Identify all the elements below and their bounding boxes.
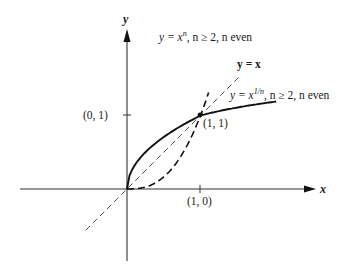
y-axis-label: y [123,12,128,27]
identity-line-label: y = x [237,59,261,71]
root-curve-label-exponent: 1/n [254,87,264,96]
root-curve-label-condition: , n ≥ 2, n even [264,89,329,101]
power-curve-label: y = xn, n ≥ 2, n even [159,30,252,43]
function-graph: y x (0, 1) (1, 1) (1, 0) y = xn, n ≥ 2, … [0,0,360,274]
root-curve-label-main: y = x [230,89,254,101]
x-axis-label: x [320,182,326,197]
point-label-0-1: (0, 1) [83,110,108,122]
identity-line [86,77,240,231]
power-curve-label-condition: , n ≥ 2, n even [187,31,252,43]
intersection-point [198,113,203,118]
x-axis-arrow-icon [304,186,316,193]
power-curve [127,93,209,189]
power-curve-label-main: y = x [159,31,183,43]
y-axis-arrow-icon [124,29,131,42]
point-label-1-0: (1, 0) [187,196,212,208]
point-label-1-1: (1, 1) [203,118,228,130]
root-curve-label: y = x1/n, n ≥ 2, n even [230,88,329,101]
